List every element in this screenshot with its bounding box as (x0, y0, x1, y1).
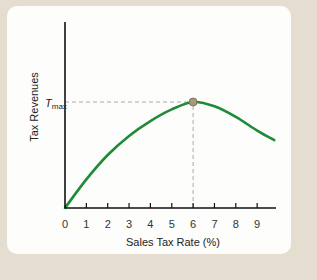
tmax-label: Tmax (45, 97, 67, 111)
y-axis-title: Tax Revenues (28, 72, 40, 142)
x-tick-label: 3 (126, 218, 132, 230)
tax-revenue-curve (65, 102, 274, 208)
chart-axes (65, 22, 276, 208)
laffer-chart: 0123456789 Tax Revenues Sales Tax Rate (… (0, 0, 317, 280)
x-tick-label: 9 (254, 218, 260, 230)
x-tick-label: 4 (147, 218, 153, 230)
x-tick-label: 7 (211, 218, 217, 230)
x-axis-title: Sales Tax Rate (%) (126, 236, 220, 248)
reference-dashed-lines (65, 102, 193, 208)
x-tick-label: 2 (105, 218, 111, 230)
revenue-curve-line (65, 102, 274, 208)
x-tick-label: 1 (83, 218, 89, 230)
peak-point (189, 98, 197, 106)
x-tick-label: 5 (169, 218, 175, 230)
peak-marker (189, 98, 197, 106)
x-tick-label: 0 (62, 218, 68, 230)
x-tick-label: 8 (233, 218, 239, 230)
x-tick-label: 6 (190, 218, 196, 230)
x-axis-ticks: 0123456789 (62, 203, 260, 230)
